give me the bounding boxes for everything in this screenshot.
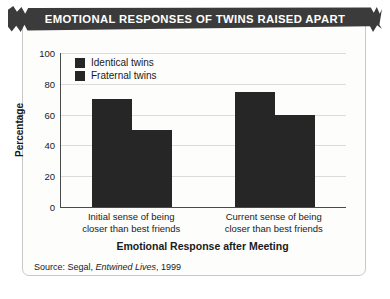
bar (92, 99, 132, 207)
gridline (61, 53, 346, 54)
legend-swatch-fraternal-twins (75, 71, 85, 81)
bar (275, 115, 315, 207)
source-work-title: Entwined Lives (96, 262, 157, 272)
source-prefix: Source: Segal, (34, 262, 96, 272)
y-axis-tick-label: 80 (44, 78, 55, 89)
y-axis-tick-label: 40 (44, 140, 55, 151)
y-axis-tick-label: 20 (44, 171, 55, 182)
x-axis-category-label-line: Current sense of being (203, 211, 346, 223)
x-axis-category-label-line: closer than best friends (203, 223, 346, 235)
legend-item: Fraternal twins (75, 70, 157, 81)
legend-item: Identical twins (75, 57, 157, 68)
legend-label-identical-twins: Identical twins (91, 57, 154, 68)
gridline (61, 84, 346, 85)
x-axis-category-label-line: closer than best friends (60, 223, 203, 235)
x-axis-category-label: Initial sense of beingcloser than best f… (60, 211, 203, 234)
legend-label-fraternal-twins: Fraternal twins (91, 70, 157, 81)
y-axis-tick-label: 0 (50, 202, 55, 213)
y-axis-tick-label: 100 (39, 48, 55, 59)
legend-swatch-identical-twins (75, 58, 85, 68)
y-axis-tick-label: 60 (44, 109, 55, 120)
source-suffix: , 1999 (156, 262, 181, 272)
y-axis-title: Percentage (14, 103, 25, 157)
bar (235, 92, 275, 208)
x-axis-category-label-line: Initial sense of being (60, 211, 203, 223)
bar (132, 130, 172, 207)
chart-area: Percentage 020406080100 Identical twins … (0, 0, 390, 299)
source-note: Source: Segal, Entwined Lives, 1999 (34, 262, 181, 272)
chart-legend: Identical twins Fraternal twins (75, 57, 157, 81)
x-axis-category-label: Current sense of beingcloser than best f… (203, 211, 346, 234)
plot-region: 020406080100 Identical twins Fraternal t… (60, 53, 346, 208)
x-axis-title: Emotional Response after Meeting (60, 240, 345, 252)
